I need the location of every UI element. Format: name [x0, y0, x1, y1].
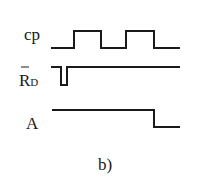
- timing-diagram: cp RD A b): [0, 0, 197, 183]
- signal-label-reset-sub: D: [30, 76, 38, 88]
- signal-label-cp: cp: [24, 25, 40, 44]
- signal-label-reset-main: R: [19, 71, 31, 90]
- figure-caption: b): [98, 155, 112, 174]
- waveform-reset: [51, 67, 180, 85]
- signal-label-reset: RD: [19, 71, 38, 90]
- signal-label-a: A: [26, 114, 39, 133]
- waveform-cp: [51, 31, 180, 48]
- waveform-a: [52, 110, 180, 127]
